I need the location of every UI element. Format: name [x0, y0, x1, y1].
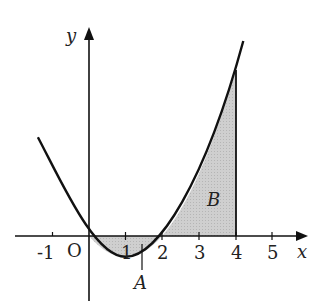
tick-label-1: 1: [121, 242, 132, 263]
tick-label-4: 4: [231, 242, 242, 263]
region-b-label: B: [206, 189, 220, 210]
tick-label-3: 3: [194, 242, 205, 263]
graph-canvas: y x O -1 1 2 3 4 5 A B: [0, 0, 325, 301]
origin-label: O: [67, 240, 82, 261]
region-a-label: A: [132, 272, 147, 293]
y-axis-label: y: [65, 25, 77, 46]
x-axis-label: x: [297, 241, 307, 262]
region-b-shade: [162, 70, 236, 236]
graph-diagram: y x O -1 1 2 3 4 5 A B: [0, 0, 325, 301]
tick-label-neg1: -1: [37, 242, 55, 263]
tick-label-2: 2: [157, 242, 168, 263]
y-axis-arrow-icon: [84, 27, 94, 40]
x-axis-arrow-icon: [296, 231, 308, 241]
tick-label-5: 5: [267, 242, 278, 263]
